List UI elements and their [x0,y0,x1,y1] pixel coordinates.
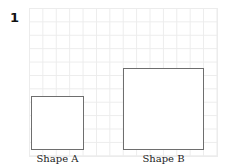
shape-a-square [31,96,84,150]
shape-a-label: Shape A [31,153,84,164]
question-number: 1 [10,11,19,24]
shape-b-square [123,68,204,150]
shape-b-label: Shape B [123,153,204,164]
